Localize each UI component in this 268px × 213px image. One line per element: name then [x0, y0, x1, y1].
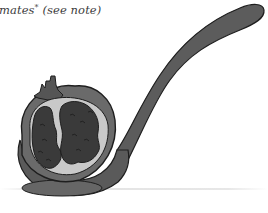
- spoon-bowl-base: [22, 180, 102, 196]
- pomegranate-spoon-illustration: [0, 0, 268, 213]
- spoon-handle: [117, 4, 264, 160]
- pomegranate-seeds-right: [60, 102, 100, 165]
